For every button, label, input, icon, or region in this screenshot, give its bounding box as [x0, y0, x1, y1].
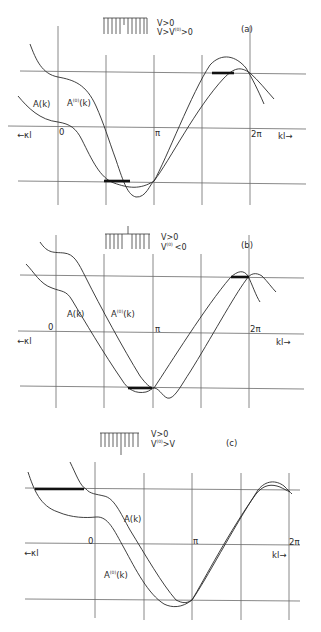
label-A: A(k) [124, 514, 141, 524]
tick-0: 0 [48, 322, 53, 332]
tick-pi: π [155, 324, 160, 334]
condition-text-2: V(0)>V [151, 439, 176, 449]
right-axis-label: kl→ [276, 337, 290, 347]
grid-lines [8, 26, 306, 205]
label-A0: A(0)(k) [111, 309, 135, 319]
grid-lines [18, 235, 304, 408]
panel-c: V>0 V(0)>V (c) A(k) A(0)(k) 0 π 2π ←κl k… [24, 430, 300, 620]
left-axis-label: ←κl [17, 130, 32, 140]
grid-lines [25, 462, 300, 620]
tick-2pi: 2π [250, 324, 261, 334]
band-structure-figure: V>0 V>V(0)>0 (a) A(k) A(0)(k) 0 π 2π ←κl… [0, 0, 321, 632]
label-A0: A(0)(k) [104, 570, 128, 580]
tick-pi: π [155, 128, 160, 138]
label-A: A(k) [67, 309, 84, 319]
panel-tag: (a) [241, 24, 253, 34]
panel-tag: (c) [226, 438, 237, 448]
potential-comb-icon [100, 433, 139, 455]
condition-text-1: V>0 [161, 233, 178, 242]
panel-a: V>0 V>V(0)>0 (a) A(k) A(0)(k) 0 π 2π ←κl… [8, 18, 306, 205]
right-axis-label: kl→ [272, 550, 286, 560]
curve-A [26, 264, 260, 393]
condition-text-2: V>V(0)>0 [157, 27, 193, 37]
label-A: A(k) [33, 99, 50, 109]
tick-0: 0 [88, 536, 93, 546]
left-axis-label: ←κl [24, 548, 39, 558]
curve-A0 [40, 242, 276, 398]
right-axis-label: kl→ [278, 131, 292, 141]
panel-tag: (b) [241, 240, 253, 250]
curve-A [70, 462, 290, 603]
curve-A0 [30, 44, 264, 197]
condition-text-2: V(0)<0 [161, 242, 187, 252]
condition-text-1: V>0 [151, 430, 168, 439]
tick-0: 0 [59, 127, 64, 137]
left-axis-label: ←κl [17, 336, 32, 346]
potential-comb-icon [105, 226, 150, 249]
tick-pi: π [193, 536, 198, 546]
potential-comb-icon [103, 18, 147, 34]
condition-text-1: V>0 [157, 19, 174, 28]
tick-2pi: 2π [289, 537, 300, 547]
tick-2pi: 2π [251, 129, 262, 139]
curve-A0 [28, 472, 292, 607]
label-A0: A(0)(k) [67, 98, 91, 108]
panel-b: V>0 V(0)<0 (b) A(k) A(0)(k) 0 π 2π ←κl k… [17, 226, 304, 408]
